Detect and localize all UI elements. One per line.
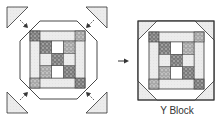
nine-patch-center xyxy=(30,31,85,88)
arrow-icon-top-right xyxy=(87,20,95,28)
arrow-icon-bottom-left xyxy=(20,93,28,101)
right-panel xyxy=(138,21,214,100)
block-caption: Y Block xyxy=(150,105,204,116)
arrow-icon-bottom-right xyxy=(87,93,95,101)
arrow-icon-top-left xyxy=(20,20,28,28)
left-panel xyxy=(7,7,107,113)
nine-patch-center xyxy=(149,32,204,89)
arrow-right-icon xyxy=(118,59,129,64)
